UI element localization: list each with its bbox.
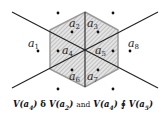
caption-and: and: [76, 100, 90, 109]
point-marker: [57, 12, 60, 15]
figure-caption: V(a4) δ V(a2) and V(a4) ∮ V(a5): [0, 99, 166, 111]
point-a7: [97, 69, 100, 72]
label-a1: a1: [28, 37, 39, 51]
relation-delta-symbol: δ: [40, 99, 46, 109]
caption-term-2: V(a2): [49, 99, 73, 109]
caption-term-3: V(a4): [93, 99, 117, 109]
voronoi-diagram: a1 a2 a3 a4 a5 a6 a7 a8: [0, 0, 166, 98]
point-a8: [129, 50, 132, 53]
point-marker: [57, 88, 60, 91]
point-a5: [112, 50, 115, 53]
point-a4: [57, 50, 60, 53]
relation-not-delta-symbol: ∮: [121, 99, 126, 109]
caption-term-4: V(a5): [129, 99, 153, 109]
label-a8: a8: [128, 37, 139, 51]
point-marker: [112, 12, 115, 15]
caption-term-1: V(a4): [13, 99, 37, 109]
point-marker: [112, 88, 115, 91]
point-a2: [71, 31, 74, 34]
point-a3: [97, 31, 100, 34]
